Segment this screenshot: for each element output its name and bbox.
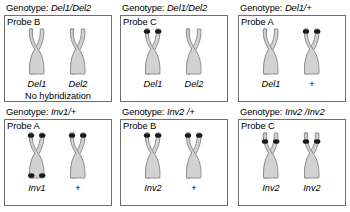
probe-label: Probe B <box>123 120 156 131</box>
probe-label: Probe B <box>7 16 40 27</box>
allele-label-right: Del2 <box>172 78 216 90</box>
genotype-caption: Genotype: Inv2 /+ <box>122 106 195 117</box>
genotype-value: Inv1/+ <box>51 106 76 117</box>
panel-note: No hybridization <box>5 90 111 102</box>
chromosome-area <box>239 131 345 181</box>
genotype-caption: Genotype: Inv1/+ <box>6 106 76 117</box>
allele-label-left: Inv1 <box>15 182 59 194</box>
allele-labels: Inv1 + <box>5 182 111 194</box>
genotype-caption: Genotype: Inv2 /Inv2 <box>240 106 325 117</box>
probe-label: Probe A <box>7 120 40 131</box>
chromosome-glyph <box>63 27 93 77</box>
genotype-panel: Genotype: Inv1/+ Probe A Inv1 + <box>4 106 112 206</box>
allele-label-left: Inv2 <box>131 182 175 194</box>
chromosome-glyph <box>138 27 168 77</box>
panel-box: Probe B Inv2 + <box>120 119 228 206</box>
chromosome-glyph <box>22 131 52 181</box>
chromosome-left <box>138 131 168 181</box>
allele-labels: Inv2 + <box>121 182 227 194</box>
genotype-caption: Genotype: Del1/+ <box>240 2 312 13</box>
chromosome-right <box>63 27 93 77</box>
allele-label-right: + <box>290 78 334 90</box>
hybridization-signals <box>303 29 321 34</box>
genotype-value: Inv2 /+ <box>167 106 195 117</box>
chromosome-area <box>121 27 227 77</box>
panel-box: Probe A Del1 + <box>238 15 346 102</box>
panel-box: Probe C Del1 Del2 <box>120 15 228 102</box>
genotype-prefix: Genotype: <box>122 106 164 117</box>
allele-labels: Del1 Del2 <box>5 78 111 90</box>
allele-label-right: + <box>56 182 100 194</box>
chromosome-left <box>22 27 52 77</box>
hybridization-signals <box>144 133 162 138</box>
genotype-prefix: Genotype: <box>240 106 282 117</box>
chromosome-left <box>256 131 286 181</box>
chromosome-glyph <box>22 27 52 77</box>
hybridization-signals <box>69 133 87 138</box>
genotype-value: Del1/Del2 <box>167 2 207 13</box>
genotype-panel: Genotype: Inv2 /+ Probe B Inv2 + <box>120 106 228 206</box>
genotype-value: Del1/Del2 <box>51 2 91 13</box>
hybridization-signals <box>144 29 162 34</box>
allele-label-right: Inv2 <box>290 182 334 194</box>
genotype-prefix: Genotype: <box>6 2 48 13</box>
allele-labels: Del1 Del2 <box>121 78 227 90</box>
chromosome-right <box>179 131 209 181</box>
chromosome-glyph <box>63 131 93 181</box>
allele-label-right: + <box>172 182 216 194</box>
allele-label-left: Del1 <box>15 78 59 90</box>
chromosome-area <box>5 131 111 181</box>
genotype-panel: Genotype: Del1/Del2 Probe C Del1 Del2 <box>120 2 228 102</box>
panel-box: Probe C Inv2 Inv2 <box>238 119 346 206</box>
genotype-value: Inv2 /Inv2 <box>285 106 325 117</box>
allele-labels: Del1 + <box>239 78 345 90</box>
chromosome-right <box>297 131 327 181</box>
chromosome-glyph <box>297 27 327 77</box>
chromosome-left <box>22 131 52 181</box>
hybridization-signals <box>185 133 203 138</box>
chromosome-left <box>256 27 286 77</box>
genotype-prefix: Genotype: <box>122 2 164 13</box>
allele-label-left: Del1 <box>131 78 175 90</box>
chromosome-glyph <box>297 131 327 181</box>
genotype-prefix: Genotype: <box>6 106 48 117</box>
genotype-caption: Genotype: Del1/Del2 <box>6 2 91 13</box>
allele-labels: Inv2 Inv2 <box>239 182 345 194</box>
chromosome-area <box>239 27 345 77</box>
chromosome-glyph <box>256 131 286 181</box>
genotype-caption: Genotype: Del1/Del2 <box>122 2 207 13</box>
chromosome-right <box>63 131 93 181</box>
genotype-prefix: Genotype: <box>240 2 282 13</box>
chromosome-glyph <box>179 27 209 77</box>
allele-label-right: Del2 <box>56 78 100 90</box>
probe-label: Probe A <box>241 16 274 27</box>
genotype-panel: Genotype: Inv2 /Inv2 Probe C Inv2 Inv2 <box>238 106 346 206</box>
probe-label: Probe C <box>123 16 157 27</box>
panel-box: Probe A Inv1 + <box>4 119 112 206</box>
hybridization-signals <box>262 139 280 144</box>
chromosome-area <box>121 131 227 181</box>
probe-label: Probe C <box>241 120 275 131</box>
chromosome-glyph <box>256 27 286 77</box>
chromosome-glyph <box>179 131 209 181</box>
fish-genotype-figure: Genotype: Del1/Del2 Probe B Del1 Del2 No… <box>0 0 350 212</box>
allele-label-left: Del1 <box>249 78 293 90</box>
panel-box: Probe B Del1 Del2 No hybridization <box>4 15 112 102</box>
chromosome-area <box>5 27 111 77</box>
genotype-value: Del1/+ <box>285 2 312 13</box>
chromosome-right <box>297 27 327 77</box>
genotype-panel: Genotype: Del1/+ Probe A Del1 + <box>238 2 346 102</box>
chromosome-left <box>138 27 168 77</box>
genotype-panel: Genotype: Del1/Del2 Probe B Del1 Del2 No… <box>4 2 112 102</box>
chromosome-right <box>179 27 209 77</box>
chromosome-glyph <box>138 131 168 181</box>
hybridization-signals <box>303 139 321 144</box>
allele-label-left: Inv2 <box>249 182 293 194</box>
